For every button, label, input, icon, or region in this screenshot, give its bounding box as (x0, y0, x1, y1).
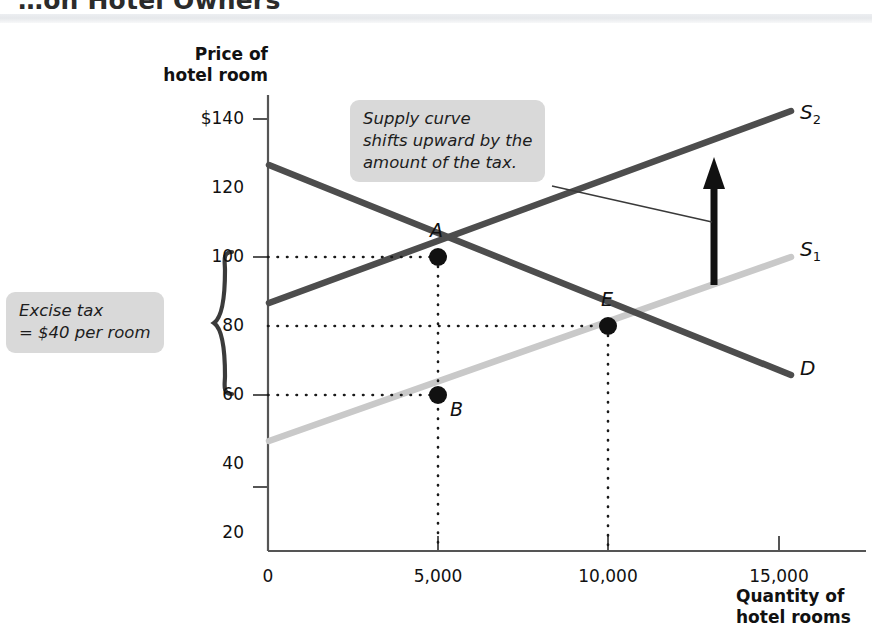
x-tick-label-15000: 15,000 (734, 566, 824, 586)
curve-label-s1-text: S (800, 237, 813, 261)
x-axis-title: Quantity of hotel rooms (736, 586, 872, 629)
callout-supply-shift: Supply curve shifts upward by the amount… (350, 100, 545, 182)
curve-label-s2: S2 (800, 100, 821, 127)
point-b (429, 386, 447, 404)
point-e (599, 317, 617, 335)
y-axis-title-line2: hotel room (152, 65, 268, 86)
y-tick-label-120: 120 (174, 177, 244, 197)
point-label-e: E (601, 288, 613, 310)
point-label-b: B (450, 398, 463, 420)
y-axis-title-line1: Price of (152, 44, 268, 65)
curve-label-d: D (800, 356, 815, 380)
x-axis-title-line1: Quantity of (736, 586, 872, 607)
point-a (429, 248, 447, 266)
x-tick-label-10000: 10,000 (563, 566, 653, 586)
callout-leader-line (552, 186, 712, 222)
y-tick-label-60: 60 (174, 384, 244, 404)
y-tick-label-100: 100 (174, 246, 244, 266)
callout-excise-tax: Excise tax = $40 per room (6, 292, 164, 353)
curve-label-s2-text: S (800, 100, 813, 124)
chart-figure: …on Hotel Owners (0, 0, 872, 637)
x-tick-label-5000: 5,000 (393, 566, 483, 586)
x-axis-title-line2: hotel rooms (736, 607, 872, 628)
y-tick-label-40: 40 (174, 453, 244, 473)
y-tick-label-20: 20 (174, 522, 244, 542)
curve-label-s2-sub: 2 (813, 112, 821, 127)
point-label-a: A (430, 219, 443, 241)
y-tick-label-140: $140 (174, 108, 244, 128)
y-tick-label-80: 80 (174, 315, 244, 335)
x-origin-label: 0 (223, 566, 313, 586)
curve-label-s1-sub: 1 (813, 249, 821, 264)
curve-label-s1: S1 (800, 237, 821, 264)
y-axis-title: Price of hotel room (152, 44, 268, 87)
